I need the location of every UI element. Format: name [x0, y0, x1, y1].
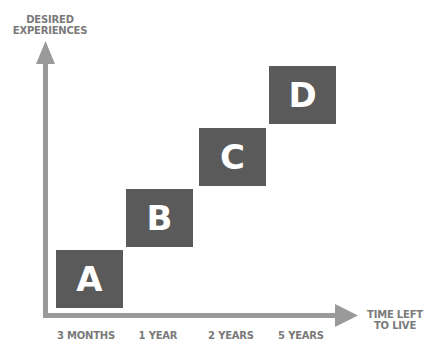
box-d: D — [269, 66, 336, 124]
box-b: B — [126, 189, 193, 247]
x-axis-label-line1: TIME LEFT — [360, 309, 430, 320]
x-tick-2-years: 2 YEARS — [208, 330, 254, 341]
x-tick-3-months: 3 MONTHS — [57, 330, 115, 341]
x-axis-label: TIME LEFT TO LIVE — [360, 309, 430, 331]
x-tick-5-years: 5 YEARS — [278, 330, 324, 341]
box-c: C — [199, 128, 266, 186]
x-axis-label-line2: TO LIVE — [360, 320, 430, 331]
y-axis-arrow-icon — [36, 41, 55, 318]
box-a: A — [56, 250, 123, 308]
x-tick-1-year: 1 YEAR — [139, 330, 178, 341]
